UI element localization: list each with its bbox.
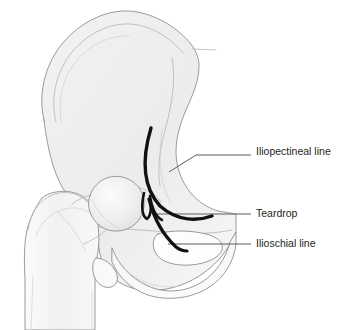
label-teardrop: Teardrop [256,207,298,219]
labels-group: Iliopectineal line Teardrop Ilioschial l… [256,145,331,249]
obturator-foramen [153,231,222,265]
femoral-head [89,176,145,231]
sacral-stub [192,49,216,50]
label-iliopectineal-line: Iliopectineal line [256,145,331,157]
leader-line-iliopectineal [169,155,251,172]
hip-anatomy-figure: Iliopectineal line Teardrop Ilioschial l… [0,0,345,330]
femoral-shaft [24,191,99,330]
label-ilioschial-line: Ilioschial line [256,237,316,249]
hip-diagram-canvas: Iliopectineal line Teardrop Ilioschial l… [0,0,345,330]
